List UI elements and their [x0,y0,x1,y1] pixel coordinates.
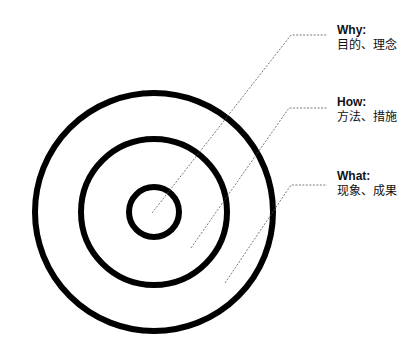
why-label: Why: 目的、理念 [337,23,397,53]
what-leader-line [225,185,327,283]
how-description: 方法、措施 [337,110,397,125]
why-leader-line [152,35,327,213]
what-label: What: 现象、成果 [337,169,397,199]
inner-circle-why [129,187,179,237]
outer-circle-what [35,93,273,331]
why-title: Why: [337,23,397,38]
why-description: 目的、理念 [337,38,397,53]
what-title: What: [337,169,397,184]
how-label: How: 方法、措施 [337,95,397,125]
middle-circle-how [81,139,227,285]
how-title: How: [337,95,397,110]
how-leader-line [191,108,327,248]
what-description: 现象、成果 [337,184,397,199]
